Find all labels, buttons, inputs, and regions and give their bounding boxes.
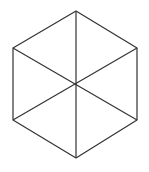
hexagon-diagram [0, 0, 149, 172]
